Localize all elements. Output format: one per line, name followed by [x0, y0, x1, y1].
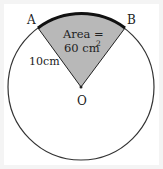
radius-unit: cm	[43, 55, 60, 68]
area-label-line2: 60 cm	[64, 41, 100, 55]
radius-value: 10	[29, 55, 43, 68]
center-point	[80, 86, 83, 89]
point-a-label: A	[26, 13, 36, 27]
area-exponent: 2	[96, 39, 101, 48]
sector-diagram: A B O Area = 60 cm 2 10 cm	[0, 0, 163, 169]
point-o-label: O	[77, 94, 87, 108]
point-b-label: B	[127, 13, 136, 27]
